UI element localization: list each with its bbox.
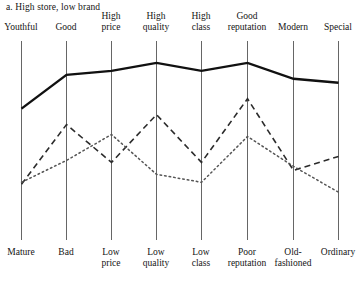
series-line-solid-series [22, 63, 339, 109]
series-line-dashed-series [22, 99, 339, 185]
series-line-dotted-series [22, 135, 339, 193]
series-lines-group [22, 63, 339, 192]
bottom-label-8: Ordinary [293, 247, 362, 258]
top-label-8: Special [293, 22, 362, 33]
semantic-differential-chart: a. High store, low brand YouthfulGoodHig… [0, 0, 362, 297]
